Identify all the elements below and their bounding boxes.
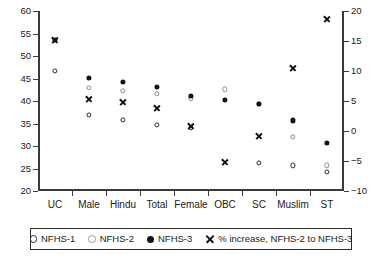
data-point	[290, 134, 295, 139]
data-point	[120, 117, 125, 122]
data-point	[120, 80, 125, 85]
data-point	[154, 122, 159, 127]
open-circle-grey-icon	[88, 235, 95, 242]
y-axis-left-tick-label: 60	[20, 6, 31, 16]
data-point	[51, 36, 59, 44]
y-axis-left-tick-label: 45	[20, 74, 31, 84]
data-point	[222, 87, 227, 92]
x-axis-tick	[208, 191, 209, 196]
data-point	[324, 170, 329, 175]
data-point	[324, 163, 329, 168]
y-axis-left-tick	[33, 169, 38, 170]
y-axis-left-tick	[33, 79, 38, 80]
y-axis-left-tick	[33, 34, 38, 35]
data-point	[86, 75, 91, 80]
x-axis-tick-label: ST	[321, 200, 334, 210]
x-axis-tick-label: Male	[78, 200, 100, 210]
x-axis-tick	[276, 191, 277, 196]
x-axis-tick-label: UC	[48, 200, 62, 210]
data-point	[256, 102, 261, 107]
chart-legend: NFHS-1 NFHS-2 NFHS-3 % increase, NFHS-2 …	[30, 228, 352, 250]
x-axis-tick-label: OBC	[214, 200, 236, 210]
y-axis-right-tick-label: 10	[351, 66, 362, 76]
open-circle-black-icon	[30, 235, 37, 242]
data-point	[324, 140, 329, 145]
x-axis-tick-label: Female	[174, 200, 207, 210]
data-point	[221, 158, 229, 166]
data-point	[119, 98, 127, 106]
y-axis-left-tick-label: 20	[20, 186, 31, 196]
legend-label: % increase, NFHS-2 to NFHS-3	[218, 234, 352, 244]
data-point	[290, 118, 295, 123]
data-point	[290, 163, 295, 168]
filled-circle-icon	[147, 236, 154, 243]
y-axis-right-tick-label: −5	[351, 156, 362, 166]
y-axis-right-tick	[344, 11, 349, 12]
legend-label: NFHS-1	[41, 234, 75, 244]
y-axis-left-tick	[33, 146, 38, 147]
data-point	[222, 98, 227, 103]
y-axis-left-tick	[33, 56, 38, 57]
y-axis-left-tick-label: 50	[20, 51, 31, 61]
x-axis-tick	[242, 191, 243, 196]
y-axis-left-tick	[33, 124, 38, 125]
x-axis-tick	[140, 191, 141, 196]
y-axis-right-tick	[344, 131, 349, 132]
y-axis-left-tick-label: 35	[20, 119, 31, 129]
data-point	[85, 95, 93, 103]
data-point	[120, 88, 125, 93]
data-point	[154, 91, 159, 96]
legend-label: NFHS-2	[100, 234, 134, 244]
x-axis-tick	[174, 191, 175, 196]
plot-area: 202530354045505560 −10−505101520 UCMaleH…	[38, 11, 344, 191]
data-point	[154, 84, 159, 89]
y-axis-right-tick-label: −10	[351, 186, 367, 196]
x-axis-tick	[310, 191, 311, 196]
cross-x-icon	[205, 235, 214, 244]
data-point	[86, 112, 91, 117]
x-axis-tick-label: SC	[252, 200, 266, 210]
y-axis-right-tick	[344, 191, 349, 192]
data-point	[52, 68, 57, 73]
legend-item-nfhs-3: NFHS-3	[147, 234, 192, 244]
data-point	[323, 15, 331, 23]
x-axis-tick-label: Hindu	[110, 200, 136, 210]
data-point	[256, 160, 261, 165]
y-axis-left-tick	[33, 101, 38, 102]
y-axis-left-tick	[33, 191, 38, 192]
y-axis-left-line	[38, 11, 40, 191]
legend-item-nfhs-2: NFHS-2	[88, 234, 134, 244]
y-axis-right-tick-label: 15	[351, 36, 362, 46]
y-axis-left-tick-label: 55	[20, 29, 31, 39]
legend-label: NFHS-3	[158, 234, 192, 244]
y-axis-left-tick	[33, 11, 38, 12]
y-axis-left-tick-label: 40	[20, 96, 31, 106]
y-axis-right-tick	[344, 161, 349, 162]
data-point	[289, 64, 297, 72]
y-axis-right-tick	[344, 101, 349, 102]
scatter-chart: 202530354045505560 −10−505101520 UCMaleH…	[0, 0, 384, 260]
x-axis-tick-label: Muslim	[277, 200, 309, 210]
y-axis-right-tick-label: 5	[351, 96, 356, 106]
y-axis-right-tick-label: 0	[351, 126, 356, 136]
legend-item-pct-increase: % increase, NFHS-2 to NFHS-3	[205, 234, 352, 244]
y-axis-left-tick-label: 30	[20, 141, 31, 151]
x-axis-tick-label: Total	[146, 200, 167, 210]
data-point	[255, 132, 263, 140]
y-axis-left-tick-label: 25	[20, 164, 31, 174]
y-axis-right-tick-label: 20	[351, 6, 362, 16]
y-axis-right-tick	[344, 71, 349, 72]
legend-item-nfhs-1: NFHS-1	[30, 234, 76, 244]
data-point	[86, 85, 91, 90]
x-axis-tick	[72, 191, 73, 196]
data-point	[187, 122, 195, 130]
y-axis-right-tick	[344, 41, 349, 42]
data-point	[153, 104, 161, 112]
x-axis-tick	[106, 191, 107, 196]
x-axis-line	[38, 189, 344, 191]
